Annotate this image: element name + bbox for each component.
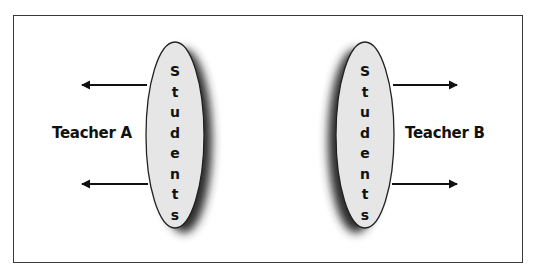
letter: s	[355, 205, 375, 226]
teacher-b-label: Teacher B	[405, 124, 485, 142]
letter: d	[355, 123, 375, 144]
letter: S	[355, 61, 375, 82]
letter: d	[165, 123, 185, 144]
letter: e	[355, 143, 375, 164]
letter: e	[165, 143, 185, 164]
letter: S	[165, 61, 185, 82]
letter: u	[165, 102, 185, 123]
teacher-a-label: Teacher A	[52, 124, 132, 142]
students-label-b: S t u d e n t s	[355, 61, 375, 225]
letter: t	[355, 82, 375, 103]
letter: t	[355, 184, 375, 205]
letter: t	[165, 184, 185, 205]
letter: t	[165, 82, 185, 103]
students-label-a: S t u d e n t s	[165, 61, 185, 225]
letter: s	[165, 205, 185, 226]
letter: u	[355, 102, 375, 123]
letter: n	[355, 164, 375, 185]
letter: n	[165, 164, 185, 185]
